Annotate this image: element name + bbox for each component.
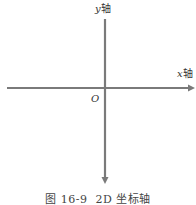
y-axis (102, 19, 109, 184)
figure-title: 2D 坐标轴 (95, 193, 150, 205)
y-axis-label: y轴 (95, 3, 111, 15)
x-axis-label: x轴 (177, 68, 193, 80)
y-axis-arrow-icon (102, 177, 109, 184)
x-axis (7, 85, 195, 92)
figure-number: 图 16-9 (45, 193, 87, 205)
origin-label: O (91, 93, 99, 105)
y-axis-suffix: 轴 (101, 3, 111, 14)
x-axis-suffix: 轴 (183, 68, 193, 79)
figure-caption: 图 16-92D 坐标轴 (0, 190, 196, 205)
coordinate-axes-figure: y轴 x轴 O 图 16-92D 坐标轴 (0, 0, 196, 205)
x-axis-arrow-icon (188, 85, 195, 92)
